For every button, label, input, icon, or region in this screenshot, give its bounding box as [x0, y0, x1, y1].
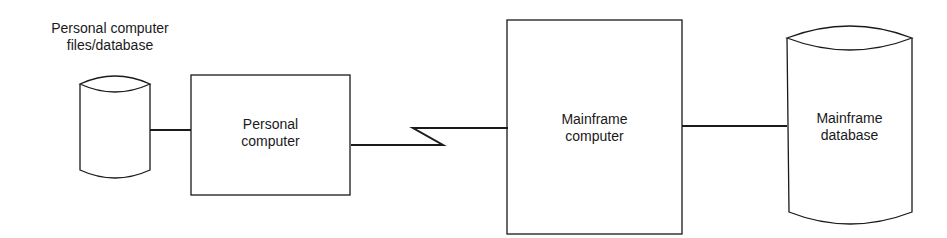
- edge-pc-mainframe-zigzag: [351, 128, 508, 145]
- pc-files-cylinder: [80, 76, 150, 178]
- mainframe-db-label: Mainframe database: [787, 110, 912, 144]
- mainframe-label: Mainframe computer: [507, 111, 682, 145]
- pc-files-label: Personal computer files/database: [20, 20, 200, 54]
- pc-label: Personal computer: [191, 116, 350, 150]
